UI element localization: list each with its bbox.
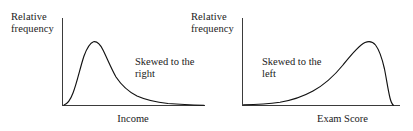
panel-skewed-left: Relative frequency Skewed to the left Ex…	[200, 0, 406, 131]
annotation-skewed-left: Skewed to the left	[262, 56, 322, 80]
x-axis-label-exam-score: Exam Score	[285, 113, 400, 125]
panel-skewed-right: Relative frequency Skewed to the right I…	[0, 0, 206, 131]
annotation-skewed-right-line1: Skewed to the	[135, 56, 195, 68]
annotation-skewed-right: Skewed to the right	[135, 56, 195, 80]
annotation-skewed-right-line2: right	[135, 68, 195, 80]
skewness-figure: Relative frequency Skewed to the right I…	[0, 0, 413, 131]
annotation-skewed-left-line2: left	[262, 68, 322, 80]
x-axis-label-income: Income	[88, 113, 178, 125]
annotation-skewed-left-line1: Skewed to the	[262, 56, 322, 68]
